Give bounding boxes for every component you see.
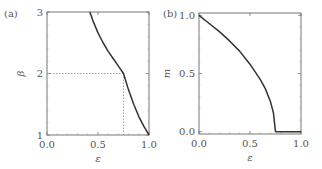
- x-tick-label: 1.0: [293, 138, 309, 149]
- y-tick-label: 0.0: [179, 126, 195, 137]
- y-tick-label: 1: [37, 130, 43, 141]
- x-tick-label: 0.5: [90, 139, 106, 150]
- x-tick-label: 0.0: [39, 139, 55, 150]
- figure: 0.00.51.0123εβ(a) 0.00.51.00.00.51.0εm(b…: [0, 0, 322, 169]
- panel-a: 0.00.51.0123εβ(a): [4, 7, 157, 165]
- y-axis-label: m: [161, 69, 172, 78]
- y-tick-label: 0.5: [179, 68, 195, 79]
- y-tick-label: 1.0: [179, 10, 195, 21]
- y-tick-label: 3: [37, 7, 43, 18]
- data-line-m: [199, 15, 301, 131]
- x-tick-label: 1.0: [141, 139, 157, 150]
- panel-label: (b): [163, 8, 177, 19]
- y-axis-label: β: [15, 70, 26, 77]
- plot-frame: [199, 13, 301, 134]
- y-tick-label: 2: [37, 68, 43, 79]
- x-axis-label: ε: [247, 152, 252, 163]
- panel-b: 0.00.51.00.00.51.0εm(b): [161, 8, 309, 163]
- x-axis-label: ε: [95, 153, 100, 164]
- x-tick-label: 0.0: [191, 138, 207, 149]
- panel-label: (a): [4, 8, 18, 19]
- x-tick-label: 0.5: [242, 138, 258, 149]
